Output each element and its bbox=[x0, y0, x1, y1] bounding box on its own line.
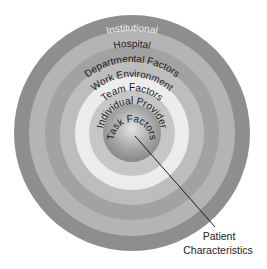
rings bbox=[14, 15, 250, 251]
label-hospital: Hospital bbox=[113, 38, 152, 51]
error-model-diagram: Institutional Hospital Departmental Fact… bbox=[0, 0, 267, 269]
callout-label-line1: Patient bbox=[203, 230, 236, 242]
callout-label-line2: Characteristics bbox=[183, 244, 252, 256]
